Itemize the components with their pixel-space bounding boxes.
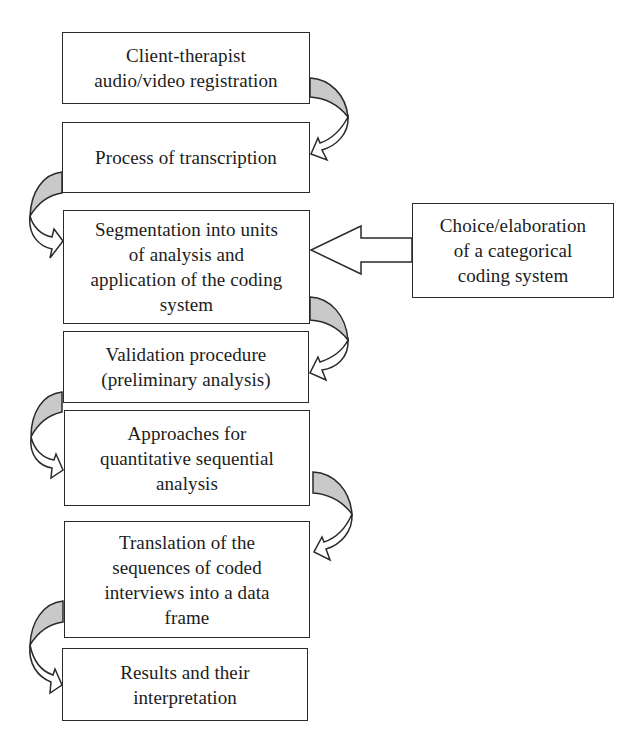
step-label: Validation procedure (preliminary analys… xyxy=(101,342,270,392)
step-label: Translation of the sequences of coded in… xyxy=(104,530,269,630)
curved-arrow-step6-to-step7 xyxy=(30,601,63,693)
step-validation-procedure: Validation procedure (preliminary analys… xyxy=(63,331,309,403)
step-translation-to-data-frame: Translation of the sequences of coded in… xyxy=(64,521,310,638)
curved-arrow-step3-to-step4 xyxy=(310,297,348,380)
side-input-label: Choice/elaboration of a categorical codi… xyxy=(440,213,586,288)
step-results-interpretation: Results and their interpretation xyxy=(62,648,308,721)
step-label: Approaches for quantitative sequential a… xyxy=(100,421,274,496)
step-audio-video-registration: Client-therapist audio/video registratio… xyxy=(62,32,310,104)
step-label: Process of transcription xyxy=(95,145,277,170)
curved-arrow-step4-to-step5 xyxy=(31,392,63,478)
step-label: Results and their interpretation xyxy=(120,660,249,710)
step-segmentation-coding: Segmentation into units of analysis and … xyxy=(63,210,310,324)
step-sequential-analysis-approaches: Approaches for quantitative sequential a… xyxy=(64,410,310,506)
step-label: Segmentation into units of analysis and … xyxy=(91,217,283,317)
side-input-coding-system: Choice/elaboration of a categorical codi… xyxy=(412,203,614,298)
curved-arrow-step5-to-step6 xyxy=(313,472,352,560)
step-label: Client-therapist audio/video registratio… xyxy=(94,43,277,93)
curved-arrow-step2-to-step3 xyxy=(30,172,63,258)
step-transcription: Process of transcription xyxy=(62,122,310,193)
curved-arrow-step1-to-step2 xyxy=(310,78,348,160)
block-arrow-coding-system-to-step3 xyxy=(311,226,412,274)
